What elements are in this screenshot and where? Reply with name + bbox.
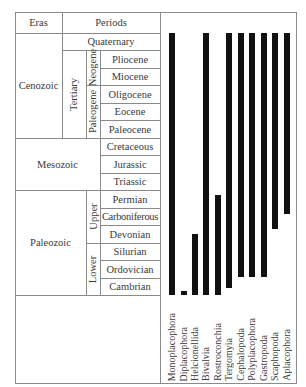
bar-tergomyia: [226, 33, 232, 288]
line-paleozoic: [15, 295, 161, 296]
taxon-helcionellida: Helcionellida: [189, 327, 200, 381]
label-neogene: Neogene: [86, 50, 100, 85]
taxon-label: Polyplacophora: [246, 295, 257, 381]
taxon-label: Gastropoda: [258, 295, 269, 381]
paleogene-text: Paleogene: [88, 90, 99, 133]
taxon-label: Monoplacophora: [166, 295, 177, 381]
taxon-scaphopoda: Scaphopoda: [269, 332, 280, 381]
taxon-label: Scaphopoda: [269, 295, 280, 381]
header-eras: Eras: [15, 12, 62, 33]
taxon-tergomyia: Tergomyia: [223, 338, 234, 381]
bar-aplacophora: [284, 33, 290, 214]
header-periods: Periods: [62, 12, 160, 33]
period-ordovician: Ordovician: [100, 260, 160, 278]
label-upper: Upper: [86, 190, 100, 243]
taxon-cephalopoda: Cephalopoda: [235, 328, 246, 381]
tertiary-text: Tertiary: [69, 77, 80, 110]
bar-rostroconchia: [215, 195, 221, 295]
period-quaternary: Quaternary: [62, 33, 160, 50]
lower-text: Lower: [88, 255, 99, 282]
taxon-bivalvia: Bivalvia: [200, 347, 211, 381]
taxon-polyplacophora: Polyplacophora: [246, 318, 257, 381]
period-cambrian: Cambrian: [100, 278, 160, 295]
taxon-label: Bivalvia: [200, 295, 211, 381]
period-pliocene: Pliocene: [100, 50, 160, 68]
neogene-text: Neogene: [88, 49, 99, 86]
period-miocene: Miocene: [100, 68, 160, 85]
era-mesozoic: Mesozoic: [15, 138, 100, 190]
taxon-label: Tergomyia: [223, 295, 234, 381]
bar-monoplacophora: [169, 33, 175, 295]
bar-bivalvia: [203, 33, 209, 295]
label-paleogene: Paleogene: [86, 85, 100, 138]
taxon-aplacophora: Aplacophora: [281, 329, 292, 381]
era-paleozoic: Paleozoic: [15, 190, 86, 295]
period-jurassic: Jurassic: [100, 155, 160, 173]
period-triassic: Triassic: [100, 173, 160, 190]
upper-text: Upper: [88, 203, 99, 229]
period-silurian: Silurian: [100, 243, 160, 260]
taxon-label: Rostroconchia: [212, 295, 223, 381]
period-carboniferous: Carboniferous: [100, 208, 160, 225]
taxon-monoplacophora: Monoplacophora: [166, 313, 177, 381]
label-tertiary: Tertiary: [62, 50, 86, 138]
period-oligocene: Oligocene: [100, 85, 160, 103]
period-permian: Permian: [100, 190, 160, 208]
taxon-label: Helcionellida: [189, 295, 200, 381]
taxon-rostroconchia: Rostroconchia: [212, 323, 223, 381]
taxon-label: Cephalopoda: [235, 295, 246, 381]
bar-cephalopoda: [238, 33, 244, 277]
taxon-diplacophora: Diplacophora: [178, 327, 189, 381]
period-paleocene: Paleocene: [100, 120, 160, 138]
bar-helcionellida: [192, 234, 198, 295]
taxon-label: Diplacophora: [178, 295, 189, 381]
era-cenozoic: Cenozoic: [15, 33, 62, 138]
taxon-label: Aplacophora: [281, 295, 292, 381]
bar-polyplacophora: [249, 33, 255, 277]
period-eocene: Eocene: [100, 103, 160, 120]
period-devonian: Devonian: [100, 225, 160, 243]
label-lower: Lower: [86, 243, 100, 295]
bar-gastropoda: [261, 33, 267, 277]
period-cretaceous: Cretaceous: [100, 138, 160, 155]
bar-scaphopoda: [272, 33, 278, 229]
taxon-gastropoda: Gastropoda: [258, 335, 269, 381]
